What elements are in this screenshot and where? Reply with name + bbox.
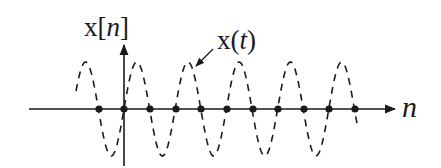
sampling-diagram: x[n] x(t) n xyxy=(0,0,441,168)
sample-dot xyxy=(249,105,256,112)
sample-dot xyxy=(146,105,153,112)
sample-dot xyxy=(95,105,102,112)
sample-dot xyxy=(325,105,332,112)
sample-dot xyxy=(223,105,230,112)
sample-dot xyxy=(351,105,358,112)
vertical-axis-label: x[n] xyxy=(84,12,129,42)
sample-dot xyxy=(197,105,204,112)
horizontal-axis-label: n xyxy=(402,90,417,123)
sample-dot xyxy=(120,105,127,112)
sample-dot xyxy=(300,105,307,112)
curve-label: x(t) xyxy=(217,25,256,55)
sample-dot xyxy=(274,105,281,112)
sample-dot xyxy=(172,105,179,112)
curve-pointer-arrow xyxy=(196,49,213,66)
